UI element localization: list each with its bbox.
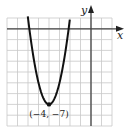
y-axis-label: y xyxy=(80,4,88,17)
parabola-graph: x y (−4, −7) xyxy=(0,0,131,136)
x-axis-label: x xyxy=(117,29,124,42)
y-axis-arrow-icon xyxy=(88,5,94,13)
vertex-point xyxy=(47,102,51,106)
vertex-label: (−4, −7) xyxy=(29,109,68,119)
